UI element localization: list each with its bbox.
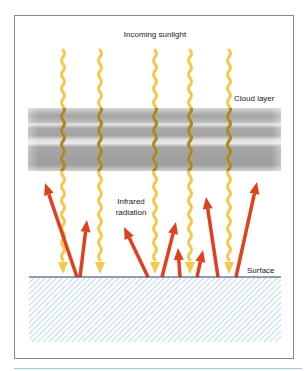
infrared-label-line1: Infrared — [106, 197, 156, 207]
ground — [29, 278, 281, 342]
bottom-rule — [14, 368, 302, 369]
infrared-label-line2: radiation — [106, 208, 156, 218]
infrared-arrow — [236, 182, 259, 277]
infrared-arrow — [196, 250, 206, 277]
cloud-layer-label: Cloud layer — [234, 94, 274, 104]
infrared-arrow — [80, 220, 91, 277]
diagram-stage: Incoming sunlight Cloud layer Infrared r… — [0, 0, 306, 371]
incoming-sunlight-label: Incoming sunlight — [100, 30, 210, 40]
infrared-arrow — [124, 227, 148, 277]
surface-label: Surface — [247, 266, 275, 276]
infrared-arrow — [162, 222, 178, 277]
infrared-arrow — [203, 197, 218, 277]
greenhouse-diagram — [0, 0, 306, 371]
infrared-arrow — [174, 248, 184, 277]
